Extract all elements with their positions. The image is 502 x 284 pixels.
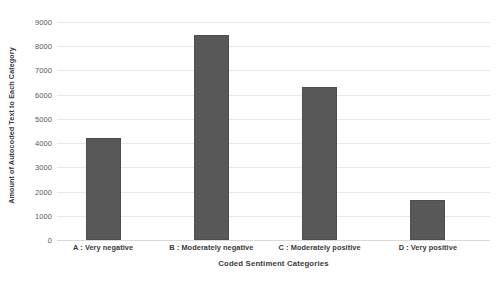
plot-area (57, 22, 490, 240)
gridline (57, 46, 490, 47)
y-axis-tick-label: 8000 (6, 42, 52, 51)
gridline (57, 119, 490, 120)
x-axis-tick-label: B : Moderately negative (157, 243, 265, 252)
gridline (57, 192, 490, 193)
bar (194, 35, 229, 240)
gridline (57, 167, 490, 168)
bar (410, 200, 445, 240)
gridline (57, 143, 490, 144)
x-axis-tick-label: C : Moderately positive (266, 243, 374, 252)
bar-chart-figure: Amount of Autocoded Text to Each Categor… (0, 0, 502, 284)
x-axis-tick-label: A : Very negative (49, 243, 157, 252)
x-axis-tick-label: D : Very positive (374, 243, 482, 252)
gridline (57, 240, 490, 241)
gridline (57, 22, 490, 23)
x-axis-tick-labels: A : Very negativeB : Moderately negative… (57, 243, 490, 259)
y-axis-tick-label: 0 (6, 236, 52, 245)
y-axis-tick-label: 9000 (6, 18, 52, 27)
y-axis-tick-label: 3000 (6, 163, 52, 172)
y-axis-tick-labels: 0100020003000400050006000700080009000 (0, 22, 52, 240)
y-axis-tick-label: 2000 (6, 187, 52, 196)
y-axis-tick-label: 5000 (6, 114, 52, 123)
gridline (57, 70, 490, 71)
bar (86, 138, 121, 240)
x-axis-title: Coded Sentiment Categories (57, 259, 490, 268)
y-axis-tick-label: 1000 (6, 211, 52, 220)
y-axis-tick-label: 6000 (6, 90, 52, 99)
bar (302, 87, 337, 240)
y-axis-tick-label: 4000 (6, 139, 52, 148)
y-axis-tick-label: 7000 (6, 66, 52, 75)
gridline (57, 95, 490, 96)
